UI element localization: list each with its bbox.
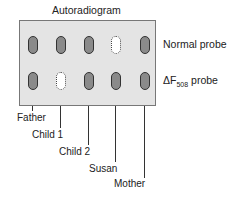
lane-line-child1 bbox=[60, 106, 61, 128]
autoradiogram-gel bbox=[19, 20, 156, 106]
band-child1-normal bbox=[56, 36, 66, 54]
band-child2-delta bbox=[84, 72, 94, 90]
band-child1-delta-absent bbox=[56, 72, 66, 90]
delta-f-text: ΔF bbox=[163, 74, 176, 86]
normal-probe-label: Normal probe bbox=[163, 38, 227, 50]
lane-label-child2: Child 2 bbox=[59, 146, 90, 157]
diagram-title: Autoradiogram bbox=[52, 4, 121, 16]
lane-line-susan bbox=[115, 106, 116, 162]
band-susan-delta bbox=[111, 72, 121, 90]
band-mother-normal bbox=[140, 36, 150, 54]
delta-f508-probe-label: ΔF508 probe bbox=[163, 74, 218, 88]
f508-subscript: 508 bbox=[176, 81, 188, 88]
lane-line-child2 bbox=[88, 106, 89, 145]
normal-probe-text: Normal probe bbox=[163, 38, 227, 50]
band-mother-delta bbox=[140, 72, 150, 90]
band-susan-normal-absent bbox=[111, 36, 121, 54]
lane-label-father: Father bbox=[17, 112, 46, 123]
lane-line-father bbox=[32, 106, 33, 111]
lane-label-child1: Child 1 bbox=[32, 129, 63, 140]
band-father-normal bbox=[28, 36, 38, 54]
lane-label-mother: Mother bbox=[114, 178, 145, 189]
lane-line-mother bbox=[144, 106, 145, 178]
band-child2-normal bbox=[84, 36, 94, 54]
lane-label-susan: Susan bbox=[89, 163, 117, 174]
probe-suffix-text: probe bbox=[188, 74, 218, 86]
band-father-delta bbox=[28, 72, 38, 90]
